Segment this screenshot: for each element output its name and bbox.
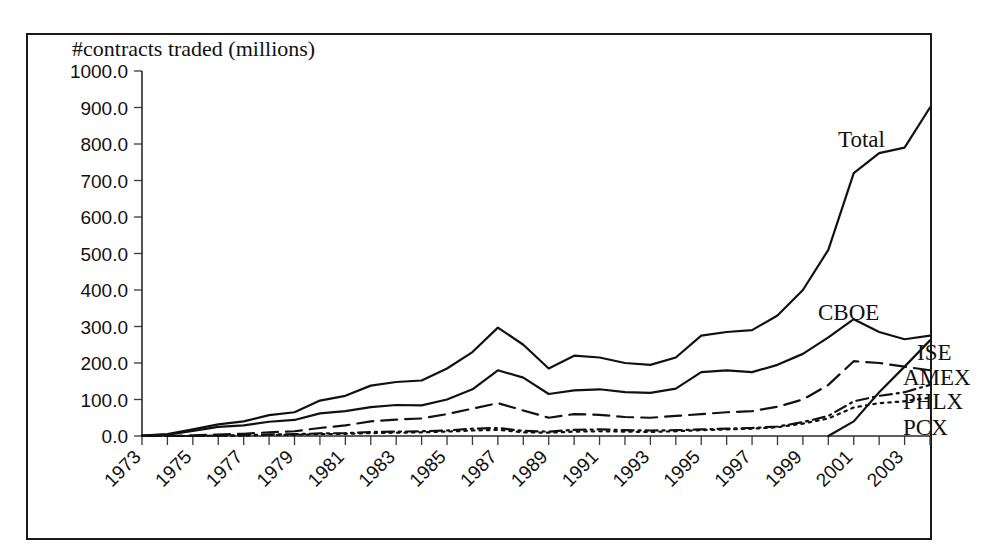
series-line-phlx [142,385,930,436]
chart-title-group: #contracts traded (millions) [72,36,315,61]
x-tick-label: 1997 [710,446,755,491]
series-label-pcx: PCX [903,415,948,440]
x-tick-label: 1977 [202,446,247,491]
x-tick-label: 1979 [253,446,298,491]
series-label-cboe: CBOE [818,300,879,325]
series-label-total: Total [838,127,885,152]
x-tick-label: 1993 [608,446,653,491]
y-tick-label: 400.0 [80,280,128,301]
y-tick-label: 500.0 [80,244,128,265]
x-tick-label: 1989 [507,446,552,491]
x-tick-label: 1985 [405,446,450,491]
series-label-phlx: PHLX [903,389,963,414]
chart-title: #contracts traded (millions) [72,36,315,61]
y-tick-label: 900.0 [80,98,128,119]
y-tick-label: 100.0 [80,390,128,411]
x-tick-label: 2001 [812,446,857,491]
y-tick-label: 800.0 [80,134,128,155]
x-tick-label: 1981 [303,446,348,491]
x-tick-label: 1975 [151,446,196,491]
y-tick-label: 200.0 [80,353,128,374]
y-tick-label: 600.0 [80,207,128,228]
y-tick-label: 300.0 [80,317,128,338]
series-label-ise: ISE [917,340,952,365]
line-chart: #contracts traded (millions) 0.0100.0200… [0,0,1006,551]
x-axis-ticks: 1973197519771979198119831985198719891991… [100,436,930,491]
x-tick-label: 1999 [761,446,806,491]
x-tick-label: 1995 [659,446,704,491]
series-annotations: TotalCBOEISEAMEXPHLXPCX [818,127,971,440]
chart-page: #contracts traded (millions) 0.0100.0200… [0,0,1006,551]
y-axis-ticks: 0.0100.0200.0300.0400.0500.0600.0700.080… [70,61,142,447]
y-tick-label: 1000.0 [70,61,128,82]
series-label-amex: AMEX [903,365,971,390]
x-tick-label: 2003 [863,446,908,491]
axis-lines [142,71,930,436]
x-tick-label: 1983 [354,446,399,491]
series-line-amex [142,361,930,436]
x-tick-label: 1991 [558,446,603,491]
data-series-group [142,108,930,437]
x-tick-label: 1987 [456,446,501,491]
x-tick-label: 1973 [100,446,145,491]
y-tick-label: 0.0 [102,426,128,447]
y-tick-label: 700.0 [80,171,128,192]
